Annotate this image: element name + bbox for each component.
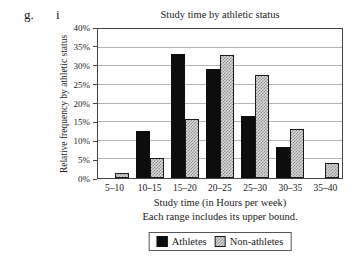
- non-athletes-swatch-icon: [215, 236, 226, 247]
- bar-athletes-15-20: [171, 54, 185, 178]
- bar-group-20-25: [203, 29, 238, 178]
- bar-non-athletes-35-40: [325, 163, 339, 178]
- x-tick-label-5-10: 5–10: [97, 183, 132, 193]
- legend-label-non-athletes: Non-athletes: [230, 236, 284, 247]
- y-tick-label-10: 10%: [74, 137, 91, 146]
- y-axis-ticks: 0%5%10%15%20%25%30%35%40%: [0, 28, 93, 179]
- x-tick-label-10-15: 10–15: [132, 183, 167, 193]
- bar-non-athletes-10-15: [150, 158, 164, 178]
- legend-label-athletes: Athletes: [172, 236, 207, 247]
- bar-non-athletes-5-10: [115, 173, 129, 178]
- athletes-swatch-icon: [157, 236, 168, 247]
- textbook-figure-page: g. i Study time by athletic status Relat…: [0, 0, 354, 261]
- y-tick-label-20: 20%: [74, 99, 91, 108]
- y-tick-label-15: 15%: [74, 118, 91, 127]
- legend-item-athletes: Athletes: [157, 236, 207, 247]
- y-tick-label-25: 25%: [74, 80, 91, 89]
- y-tick-label-0: 0%: [78, 175, 90, 184]
- bar-non-athletes-15-20: [185, 119, 199, 178]
- bar-group-35-40: [307, 29, 342, 178]
- x-tick-label-25-30: 25–30: [238, 183, 273, 193]
- y-tick-label-35: 35%: [74, 42, 91, 51]
- x-tick-label-20-25: 20–25: [202, 183, 237, 193]
- bar-non-athletes-30-35: [290, 129, 304, 178]
- y-tick-label-5: 5%: [78, 156, 90, 165]
- exercise-label-i: i: [56, 7, 60, 23]
- x-axis-note: Each range includes its upper bound.: [142, 211, 297, 222]
- bar-non-athletes-25-30: [255, 75, 269, 178]
- plot-area: [97, 28, 343, 179]
- bar-non-athletes-20-25: [220, 55, 234, 178]
- exercise-label-g: g.: [24, 7, 34, 23]
- bar-group-30-35: [272, 29, 307, 178]
- x-axis-ticks: 5–1010–1515–2020–2525–3030–3535–40: [97, 183, 343, 193]
- legend: Athletes Non-athletes: [149, 232, 292, 251]
- bar-athletes-25-30: [241, 116, 255, 178]
- bars-row: [98, 29, 342, 178]
- x-tick-label-30-35: 30–35: [273, 183, 308, 193]
- y-tick-label-30: 30%: [74, 61, 91, 70]
- bar-group-5-10: [98, 29, 133, 178]
- legend-item-non-athletes: Non-athletes: [215, 236, 284, 247]
- x-axis-title: Study time (in Hours per week): [154, 197, 287, 208]
- bar-athletes-10-15: [136, 131, 150, 178]
- bar-group-25-30: [237, 29, 272, 178]
- bar-group-10-15: [133, 29, 168, 178]
- bar-group-15-20: [168, 29, 203, 178]
- chart-title: Study time by athletic status: [161, 9, 280, 20]
- x-tick-label-15-20: 15–20: [167, 183, 202, 193]
- bar-athletes-20-25: [206, 69, 220, 178]
- x-tick-label-35-40: 35–40: [308, 183, 343, 193]
- bar-athletes-30-35: [276, 147, 290, 178]
- y-tick-label-40: 40%: [74, 24, 91, 33]
